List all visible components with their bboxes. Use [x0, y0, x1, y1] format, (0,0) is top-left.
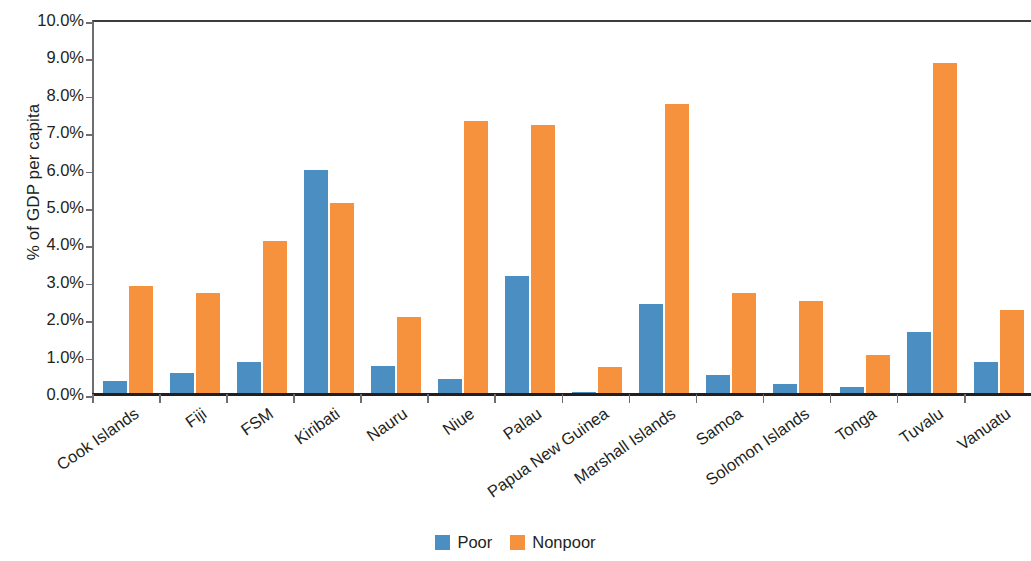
x-axis-tick-label: Vanuatu	[954, 404, 1014, 454]
x-axis-tick-label: Samoa	[692, 404, 746, 450]
y-axis-tick	[86, 172, 94, 174]
bar-nonpoor	[196, 293, 220, 394]
bar-nonpoor	[129, 286, 153, 394]
y-axis-tick	[86, 321, 94, 323]
bar-nonpoor	[263, 241, 287, 394]
x-axis-tick-label: Tonga	[832, 404, 880, 445]
legend-item: Nonpoor	[510, 533, 595, 552]
bar-nonpoor	[933, 63, 957, 394]
x-axis-tick-label: Cook Islands	[53, 404, 142, 474]
bar-poor	[237, 362, 261, 394]
bar-nonpoor	[598, 367, 622, 394]
y-axis-tick	[86, 22, 94, 24]
x-axis-tick-label: Papua New Guinea	[484, 404, 612, 502]
legend-swatch-icon	[435, 535, 450, 550]
legend-label: Nonpoor	[532, 533, 595, 552]
bar-poor	[371, 366, 395, 394]
bar-chart: % of GDP per capita 10.0%9.0%8.0%7.0%6.0…	[0, 0, 1031, 561]
x-axis-tick-labels: Cook IslandsFijiFSMKiribatiNauruNiuePala…	[92, 398, 1031, 518]
y-axis-tick-label: 6.0%	[22, 162, 84, 178]
bar-series-container	[94, 20, 1031, 394]
bar-nonpoor	[330, 203, 354, 394]
bar-nonpoor	[1000, 310, 1024, 394]
bar-poor	[706, 375, 730, 394]
y-axis-tick-labels: 10.0%9.0%8.0%7.0%6.0%5.0%4.0%3.0%2.0%1.0…	[22, 0, 84, 400]
y-axis-tick	[86, 59, 94, 61]
bar-poor	[505, 276, 529, 394]
bar-nonpoor	[531, 125, 555, 394]
legend-item: Poor	[435, 533, 492, 552]
bar-nonpoor	[799, 301, 823, 395]
bar-poor	[438, 379, 462, 394]
y-axis-tick	[86, 284, 94, 286]
y-axis-tick-label: 9.0%	[22, 49, 84, 65]
legend-swatch-icon	[510, 535, 525, 550]
y-axis-tick-label: 2.0%	[22, 311, 84, 327]
y-axis-tick	[86, 134, 94, 136]
bar-poor	[974, 362, 998, 394]
y-axis-tick-label: 7.0%	[22, 124, 84, 140]
y-axis-tick	[86, 209, 94, 211]
y-axis-tick-label: 10.0%	[22, 12, 84, 28]
y-axis-tick	[86, 97, 94, 99]
x-axis-tick-label: Kiribati	[291, 404, 343, 448]
x-axis-tick-label: Nauru	[363, 404, 411, 445]
y-axis-tick-label: 1.0%	[22, 349, 84, 365]
y-axis-tick-label: 8.0%	[22, 87, 84, 103]
bar-poor	[170, 373, 194, 394]
x-axis-tick-label: Tuvalu	[896, 404, 947, 448]
legend-label: Poor	[457, 533, 492, 552]
x-axis-tick-label: FSM	[237, 404, 276, 440]
bar-nonpoor	[732, 293, 756, 394]
y-axis-tick-label: 3.0%	[22, 274, 84, 290]
y-axis-tick	[86, 246, 94, 248]
chart-legend: PoorNonpoor	[0, 533, 1031, 552]
x-axis-tick-label: Fiji	[181, 404, 209, 432]
bar-poor	[907, 332, 931, 394]
x-axis-tick-label: Niue	[439, 404, 478, 439]
bar-nonpoor	[665, 104, 689, 394]
y-axis-tick-label: 4.0%	[22, 236, 84, 252]
plot-area	[92, 20, 1031, 394]
y-axis-tick-label: 5.0%	[22, 199, 84, 215]
y-axis-tick-label: 0.0%	[22, 386, 84, 402]
y-axis-tick	[86, 359, 94, 361]
bar-nonpoor	[866, 355, 890, 394]
bar-poor	[304, 170, 328, 394]
x-axis-tick-label: Palau	[499, 404, 544, 444]
bar-poor	[639, 304, 663, 394]
bar-nonpoor	[397, 317, 421, 394]
bar-nonpoor	[464, 121, 488, 394]
